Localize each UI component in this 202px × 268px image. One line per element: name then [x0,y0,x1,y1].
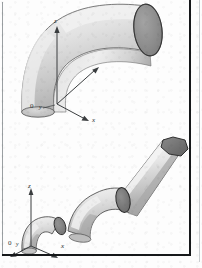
y-axis-label-lower: y [16,241,19,247]
x-axis-label-lower: x [61,243,64,250]
frame-border-bottom [2,254,191,256]
y-axis-arrowhead [92,67,99,74]
y-axis-label-upper: y [39,104,42,110]
segment-2-middle-elbow [68,186,132,243]
single-elbow-view [0,0,202,134]
origin-label-lower: 0 [8,240,12,247]
x-axis-arrowhead [82,116,90,121]
frame-border-right [189,0,191,256]
z-axis-label-lower: z [28,183,31,190]
elbow-solid [22,2,166,117]
frame-border-left [2,2,3,256]
z-axis-label-upper: z [54,18,57,25]
frame-border-right-outer [199,0,200,262]
figure-page: 0 z x y [0,0,202,268]
x-axis-label-upper: x [92,117,95,124]
origin-label-upper: 0 [30,103,34,110]
articulated-pipe-chain-view [0,134,202,268]
elbow-bottom-face [22,107,55,117]
